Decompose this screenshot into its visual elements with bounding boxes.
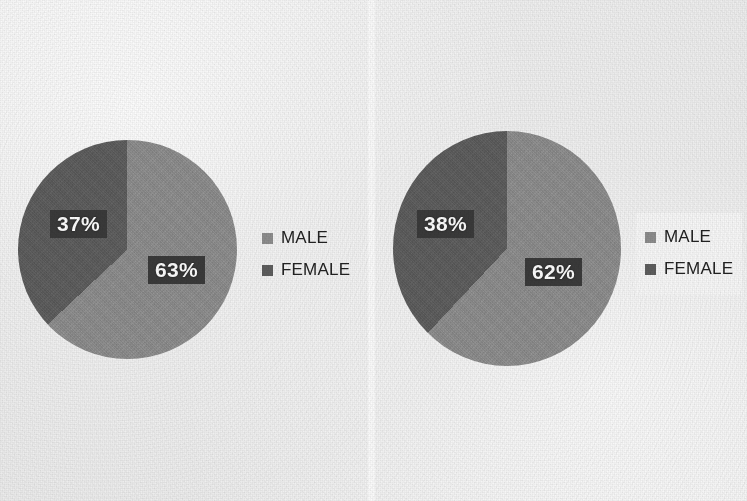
legend-swatch-female-icon (262, 265, 273, 276)
legend-label-female: FEMALE (664, 259, 733, 279)
legend-label-male: MALE (281, 228, 328, 248)
legend-left: MALE FEMALE (262, 228, 350, 280)
legend-label-male: MALE (664, 227, 711, 247)
pie-label-female-right: 38% (417, 210, 474, 238)
legend-item-male-right: MALE (645, 227, 733, 247)
panel-divider (368, 0, 375, 501)
pie-chart-left (18, 140, 237, 359)
legend-item-female-right: FEMALE (645, 259, 733, 279)
pie-slices-left (18, 140, 237, 359)
pie-chart-right (393, 131, 621, 366)
legend-item-male-left: MALE (262, 228, 350, 248)
pie-label-female-left: 37% (50, 210, 107, 238)
scanned-figure-page: 37% 63% MALE FEMALE 38% 62% MALE (0, 0, 747, 501)
legend-label-female: FEMALE (281, 260, 350, 280)
chart-panel-right: 38% 62% MALE FEMALE (375, 0, 747, 501)
legend-right: MALE FEMALE (645, 227, 733, 279)
legend-item-female-left: FEMALE (262, 260, 350, 280)
chart-panel-left: 37% 63% MALE FEMALE (0, 0, 368, 501)
legend-swatch-male-icon (262, 233, 273, 244)
pie-label-male-left: 63% (148, 256, 205, 284)
pie-slices-right (393, 131, 621, 366)
legend-swatch-male-icon (645, 232, 656, 243)
pie-label-male-right: 62% (525, 258, 582, 286)
legend-swatch-female-icon (645, 264, 656, 275)
